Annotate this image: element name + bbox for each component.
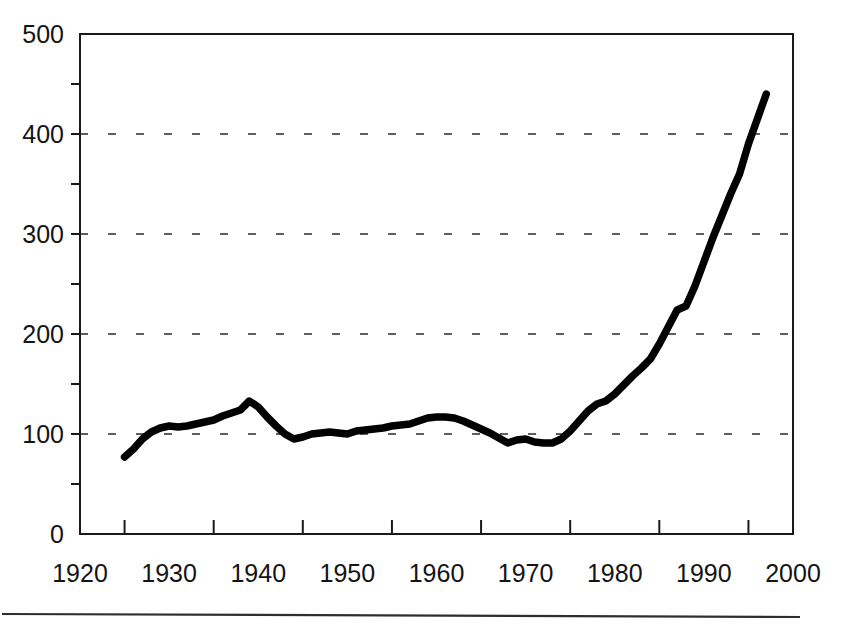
y-tick-label: 0 xyxy=(50,520,64,548)
x-axis-tick-marks xyxy=(125,520,749,534)
data-series-line xyxy=(125,94,767,457)
y-tick-label: 200 xyxy=(22,320,64,348)
y-axis-tick-labels: 0100200300400500 xyxy=(22,20,64,548)
x-tick-label: 1970 xyxy=(498,559,554,587)
line-chart: 0100200300400500 19201930194019501960197… xyxy=(0,0,842,627)
y-tick-label: 500 xyxy=(22,20,64,48)
chart-figure: 0100200300400500 19201930194019501960197… xyxy=(0,0,842,627)
x-tick-label: 1920 xyxy=(52,559,108,587)
footer-divider-rule xyxy=(2,614,800,617)
x-tick-label: 1980 xyxy=(587,559,643,587)
y-tick-label: 100 xyxy=(22,420,64,448)
y-tick-label: 300 xyxy=(22,220,64,248)
plot-frame xyxy=(80,34,793,534)
x-tick-label: 1990 xyxy=(676,559,732,587)
y-axis-tick-marks xyxy=(71,84,80,484)
x-tick-label: 1960 xyxy=(409,559,465,587)
x-tick-label: 1930 xyxy=(141,559,197,587)
x-tick-label: 1940 xyxy=(230,559,286,587)
horizontal-gridlines xyxy=(80,134,793,434)
x-axis-tick-labels: 192019301940195019601970198019902000 xyxy=(52,559,821,587)
y-tick-label: 400 xyxy=(22,120,64,148)
x-tick-label: 1950 xyxy=(320,559,376,587)
x-tick-label: 2000 xyxy=(765,559,821,587)
